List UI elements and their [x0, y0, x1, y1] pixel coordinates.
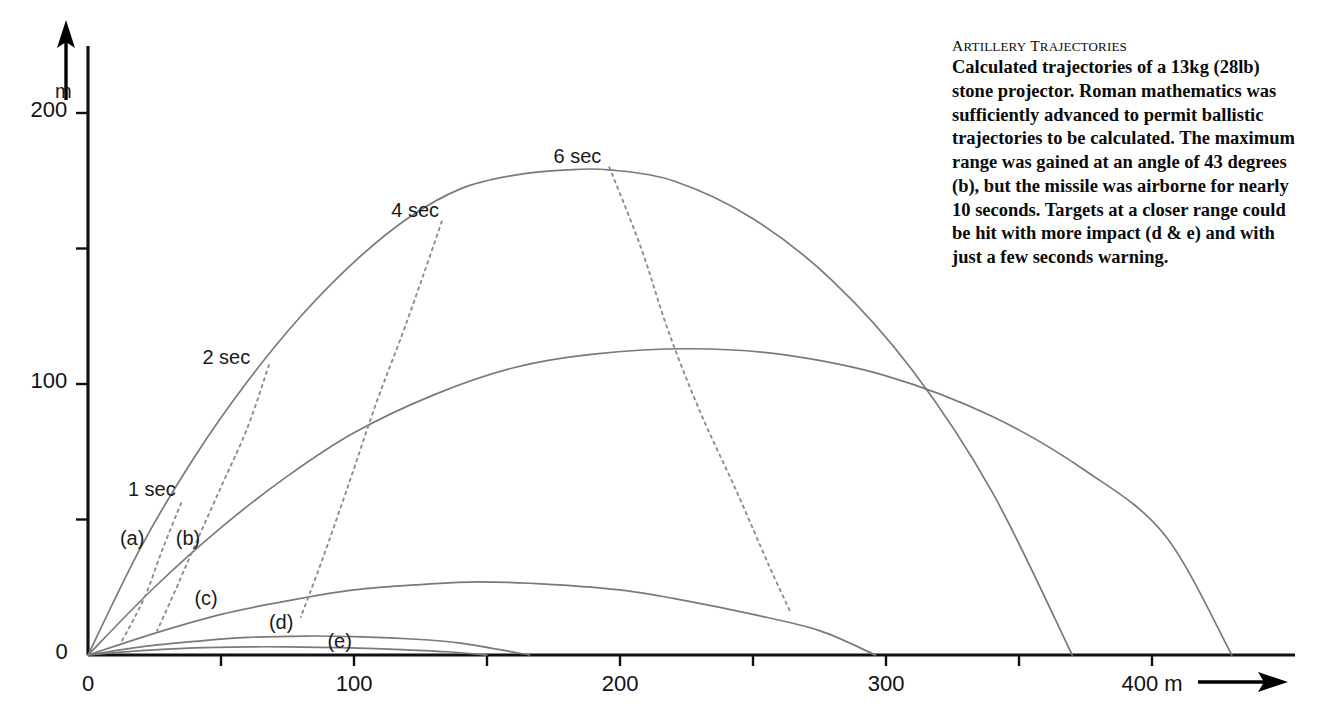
- series-label-d: (d): [269, 611, 293, 634]
- series-label-e: (e): [327, 630, 351, 653]
- series-label-b: (b): [176, 527, 200, 550]
- y-axis-tick-label-100: 100: [31, 368, 68, 394]
- x-axis-tick-label-200: 200: [602, 671, 639, 697]
- isochrone-label-4-sec: 4 sec: [391, 199, 439, 222]
- caption-title: ARTILLERY TRAJECTORIES: [952, 36, 1297, 55]
- chart-figure: ARTILLERY TRAJECTORIES Calculated trajec…: [0, 0, 1334, 719]
- isochrone-label-1-sec: 1 sec: [128, 478, 176, 501]
- x-axis-tick-label-100: 100: [336, 671, 373, 697]
- y-axis-tick-label-200: 200: [31, 97, 68, 123]
- x-axis-tick-label-400: 400 m: [1122, 671, 1183, 697]
- caption-block: ARTILLERY TRAJECTORIES Calculated trajec…: [952, 36, 1297, 270]
- isochrone-label-6-sec: 6 sec: [554, 145, 602, 168]
- x-axis-tick-label-0: 0: [82, 671, 94, 697]
- series-label-c: (c): [194, 587, 217, 610]
- caption-title-text: ARTILLERY TRAJECTORIES: [952, 37, 1127, 54]
- isochrone-6-sec: [609, 167, 790, 611]
- isochrone-1-sec: [120, 503, 181, 644]
- x-axis-tick-label-300: 300: [868, 671, 905, 697]
- y-axis-tick-label-0: 0: [56, 639, 68, 665]
- isochrone-curves-group: [120, 167, 790, 644]
- caption-body: Calculated trajectories of a 13kg (28lb)…: [952, 56, 1297, 269]
- isochrone-4-sec: [301, 221, 442, 617]
- trajectory-curve-a: [88, 169, 1072, 655]
- isochrone-label-2-sec: 2 sec: [202, 346, 250, 369]
- series-label-a: (a): [120, 527, 144, 550]
